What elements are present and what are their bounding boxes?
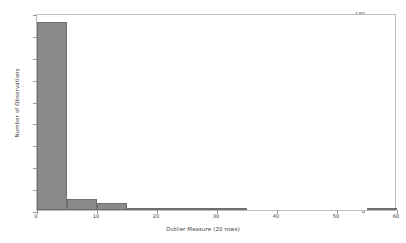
histogram-bar xyxy=(37,22,67,210)
x-axis-tick-label: 10 xyxy=(84,213,108,219)
x-axis-tick-label: 30 xyxy=(204,213,228,219)
x-axis-title: Outlier Measure (20 rows) xyxy=(0,226,406,232)
y-axis-tick xyxy=(33,168,37,169)
x-axis-tick-label: 60 xyxy=(384,213,406,219)
histogram-figure: 020406080100120140160180 0102030405060 O… xyxy=(0,0,406,243)
x-axis-tick xyxy=(337,210,338,214)
x-axis-tick xyxy=(37,210,38,214)
y-axis-tick xyxy=(33,103,37,104)
x-axis-tick-label: 50 xyxy=(324,213,348,219)
y-axis-title: Number of Observations xyxy=(14,48,20,158)
histogram-bars xyxy=(37,15,395,210)
y-axis-tick xyxy=(33,124,37,125)
x-axis-tick-label: 40 xyxy=(264,213,288,219)
histogram-bar xyxy=(97,203,127,210)
histogram-bar xyxy=(127,208,157,210)
y-axis-tick xyxy=(33,146,37,147)
plot-area xyxy=(36,14,396,211)
x-axis-tick xyxy=(157,210,158,214)
y-axis-tick xyxy=(33,15,37,16)
y-axis-tick xyxy=(33,59,37,60)
histogram-bar xyxy=(67,199,97,210)
x-axis-tick-label: 20 xyxy=(144,213,168,219)
y-axis-tick xyxy=(33,81,37,82)
x-axis-tick xyxy=(397,210,398,214)
x-axis-tick xyxy=(97,210,98,214)
y-axis-tick xyxy=(33,190,37,191)
histogram-bar xyxy=(367,208,397,210)
histogram-bar xyxy=(187,208,217,210)
histogram-bar xyxy=(217,208,247,210)
x-axis-tick xyxy=(217,210,218,214)
histogram-bar xyxy=(157,208,187,210)
y-axis-tick xyxy=(33,37,37,38)
x-axis-tick-label: 0 xyxy=(24,213,48,219)
x-axis-tick xyxy=(277,210,278,214)
